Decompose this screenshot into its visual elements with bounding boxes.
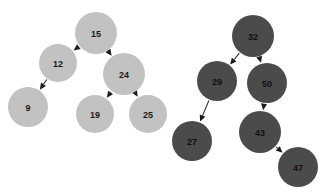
node-label-29: 29 [212, 77, 222, 87]
node-label-9: 9 [25, 103, 30, 113]
node-label-19: 19 [90, 110, 100, 120]
tree-node-43[interactable]: 43 [239, 111, 281, 153]
tree-node-29[interactable]: 29 [197, 61, 237, 101]
node-label-32: 32 [248, 32, 258, 42]
node-label-47: 47 [293, 163, 303, 173]
binary-tree-diagram: 15129241925322927504347 [0, 0, 322, 193]
tree-node-19[interactable]: 19 [76, 95, 114, 133]
tree-canvas: 15129241925322927504347 [0, 0, 322, 193]
tree-node-27[interactable]: 27 [172, 121, 212, 161]
arrowhead-icon [256, 56, 262, 63]
tree-node-9[interactable]: 9 [8, 87, 48, 127]
tree-edge-43-to-47 [276, 147, 278, 148]
tree-edge-32-to-29 [234, 53, 239, 59]
tree-edge-24-to-19 [111, 92, 112, 93]
node-label-12: 12 [53, 59, 63, 69]
tree-node-50[interactable]: 50 [247, 63, 287, 103]
node-label-27: 27 [187, 137, 197, 147]
arrowhead-icon [261, 103, 267, 110]
tree-node-15[interactable]: 15 [75, 12, 117, 54]
arrowhead-icon [230, 58, 236, 65]
arrowhead-icon [40, 83, 46, 90]
node-label-43: 43 [255, 128, 265, 138]
node-label-24: 24 [119, 70, 129, 80]
tree-edge-29-to-27 [203, 100, 209, 115]
tree-node-47[interactable]: 47 [278, 147, 318, 187]
tree-node-32[interactable]: 32 [232, 15, 274, 57]
nodes-layer: 15129241925322927504347 [8, 12, 318, 187]
node-label-15: 15 [91, 29, 101, 39]
arrowhead-icon [107, 91, 113, 98]
tree-node-12[interactable]: 12 [39, 44, 77, 82]
tree-node-25[interactable]: 25 [129, 95, 167, 133]
node-label-25: 25 [143, 110, 153, 120]
tree-node-24[interactable]: 24 [103, 53, 145, 95]
node-label-50: 50 [262, 79, 272, 89]
tree-edge-12-to-9 [43, 80, 46, 85]
